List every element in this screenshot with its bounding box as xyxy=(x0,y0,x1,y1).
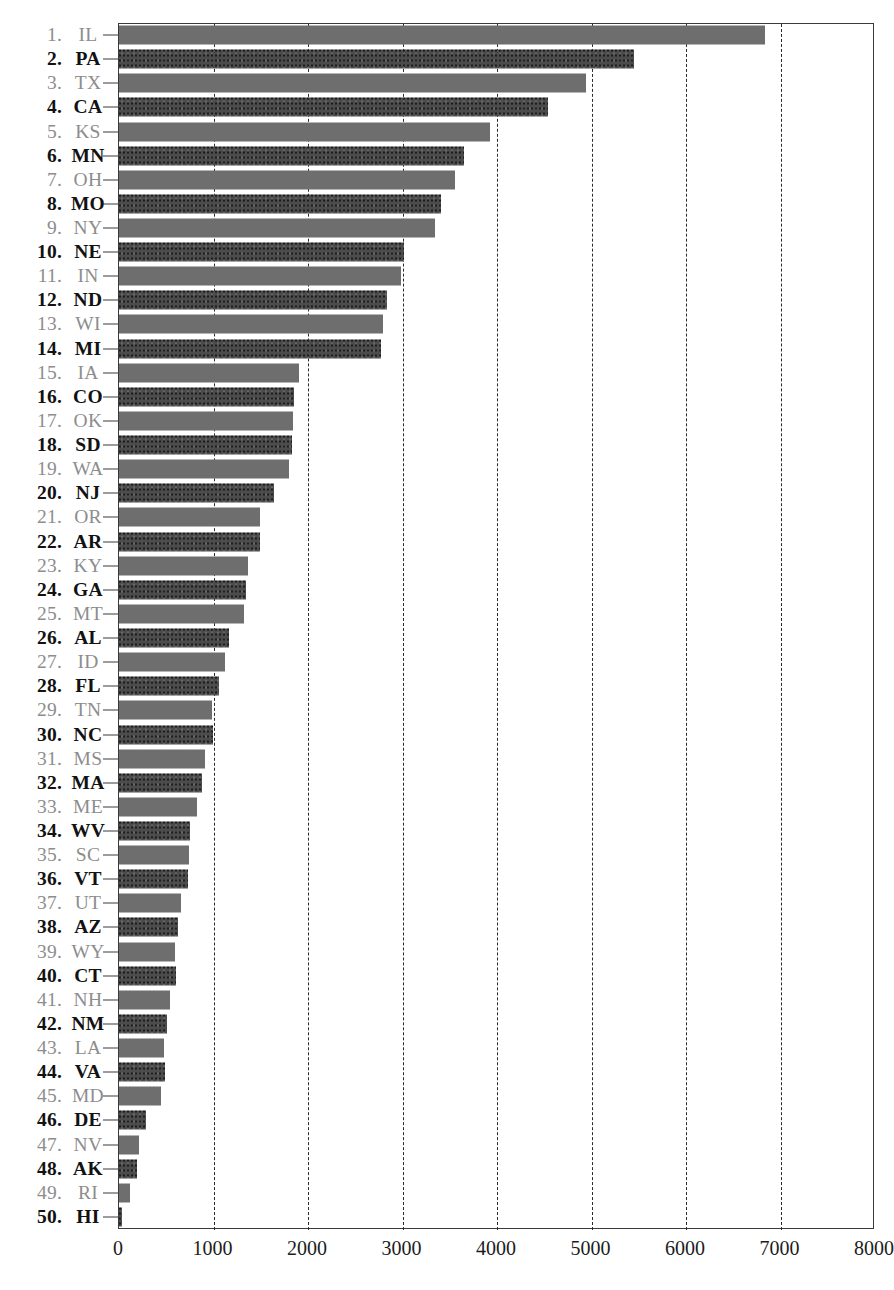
y-axis-tick xyxy=(103,107,119,108)
bar xyxy=(119,1207,122,1226)
rank-label: 18. xyxy=(0,435,62,455)
bar xyxy=(119,556,248,575)
rank-label: 6. xyxy=(0,145,62,165)
bar xyxy=(119,363,299,382)
bar xyxy=(119,267,401,286)
y-axis-tick xyxy=(103,565,119,566)
bar-row: 23.KY xyxy=(0,554,891,578)
rank-label: 27. xyxy=(0,652,62,672)
bar xyxy=(119,315,383,334)
rank-label: 49. xyxy=(0,1182,62,1202)
bar xyxy=(119,604,244,623)
rank-label: 15. xyxy=(0,362,62,382)
bar-row: 19.WA xyxy=(0,457,891,481)
y-axis-tick xyxy=(103,300,119,301)
bar-row: 35.SC xyxy=(0,843,891,867)
y-axis-tick xyxy=(103,517,119,518)
bar xyxy=(119,122,490,141)
bar xyxy=(119,725,213,744)
y-axis-tick xyxy=(103,179,119,180)
y-axis-tick xyxy=(103,348,119,349)
rank-label: 16. xyxy=(0,386,62,406)
y-axis-tick xyxy=(103,782,119,783)
y-axis-tick xyxy=(103,396,119,397)
rank-label: 24. xyxy=(0,579,62,599)
rank-label: 11. xyxy=(0,266,62,286)
bar-row: 47.NV xyxy=(0,1133,891,1157)
y-axis-tick xyxy=(103,155,119,156)
bar xyxy=(119,532,260,551)
bar-row: 46.DE xyxy=(0,1108,891,1132)
bar-row: 32.MA xyxy=(0,771,891,795)
x-tick-label: 7000 xyxy=(760,1236,800,1260)
bar-row: 13.WI xyxy=(0,312,891,336)
bar-row: 40.CT xyxy=(0,964,891,988)
bar xyxy=(119,243,404,262)
y-axis-tick xyxy=(103,1216,119,1217)
y-axis-tick xyxy=(103,638,119,639)
bar xyxy=(119,508,260,527)
bar xyxy=(119,436,292,455)
bar-row: 6.MN xyxy=(0,144,891,168)
y-axis-tick xyxy=(103,469,119,470)
y-axis-tick xyxy=(103,806,119,807)
rank-label: 42. xyxy=(0,1014,62,1034)
bar xyxy=(119,146,464,165)
bar-row: 38.AZ xyxy=(0,915,891,939)
rank-label: 47. xyxy=(0,1134,62,1154)
rank-label: 22. xyxy=(0,531,62,551)
bar-row: 41.NH xyxy=(0,988,891,1012)
bar-row: 49.RI xyxy=(0,1181,891,1205)
rank-label: 2. xyxy=(0,49,62,69)
y-axis-tick xyxy=(103,35,119,36)
rank-label: 26. xyxy=(0,628,62,648)
bar-row: 5.KS xyxy=(0,119,891,143)
bar xyxy=(119,194,441,213)
y-axis-tick xyxy=(103,372,119,373)
rank-label: 28. xyxy=(0,676,62,696)
bar-row: 27.ID xyxy=(0,650,891,674)
rank-label: 41. xyxy=(0,989,62,1009)
x-axis-tick-labels: 010002000300040005000600070008000 xyxy=(0,1236,891,1270)
bar-row: 26.AL xyxy=(0,626,891,650)
bar xyxy=(119,846,189,865)
bar xyxy=(119,894,181,913)
bar xyxy=(119,74,586,93)
rank-label: 14. xyxy=(0,338,62,358)
y-axis-tick xyxy=(103,734,119,735)
y-axis-tick xyxy=(103,252,119,253)
rank-label: 30. xyxy=(0,724,62,744)
y-axis-tick xyxy=(103,951,119,952)
bar-row: 10.NE xyxy=(0,240,891,264)
rank-label: 3. xyxy=(0,73,62,93)
bar xyxy=(119,98,548,117)
bar xyxy=(119,966,176,985)
bar xyxy=(119,26,765,45)
rank-label: 23. xyxy=(0,555,62,575)
y-axis-tick xyxy=(103,758,119,759)
bar xyxy=(119,1014,167,1033)
rank-label: 40. xyxy=(0,965,62,985)
bar-row: 3.TX xyxy=(0,71,891,95)
bar xyxy=(119,580,246,599)
y-axis-tick xyxy=(103,662,119,663)
bar-row: 21.OR xyxy=(0,505,891,529)
bar-row: 37.UT xyxy=(0,891,891,915)
bar xyxy=(119,701,212,720)
bar-row: 8.MO xyxy=(0,192,891,216)
bar-row: 48.AK xyxy=(0,1157,891,1181)
bar xyxy=(119,677,219,696)
rank-label: 34. xyxy=(0,821,62,841)
y-axis-tick xyxy=(103,83,119,84)
rank-label: 17. xyxy=(0,411,62,431)
bar-row: 14.MI xyxy=(0,337,891,361)
y-axis-tick xyxy=(103,493,119,494)
y-axis-tick xyxy=(103,276,119,277)
rank-label: 25. xyxy=(0,604,62,624)
y-axis-tick xyxy=(103,59,119,60)
bar xyxy=(119,1183,130,1202)
bar xyxy=(119,918,178,937)
bar xyxy=(119,484,274,503)
